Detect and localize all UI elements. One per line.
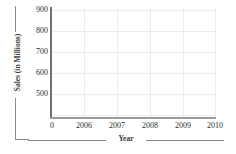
gridline-vertical (84, 8, 85, 118)
y-axis-title-block: Sales (in Millions) (8, 6, 24, 124)
gridline-vertical (215, 8, 216, 118)
gridline-horizontal (51, 73, 215, 74)
gridline-horizontal (51, 94, 215, 95)
y-axis-title-rule-bottom (15, 98, 16, 124)
x-axis-title: Year (28, 134, 224, 143)
x-axis-tick-label: 2010 (200, 121, 230, 130)
y-axis-tick-label: 700 (24, 47, 48, 56)
axis-frame-corner-horizontal (15, 139, 29, 140)
gridline-vertical (117, 8, 118, 118)
axis-frame-corner-vertical (15, 124, 16, 140)
y-axis-tick-label: 500 (24, 89, 48, 98)
gridline-horizontal (51, 115, 215, 116)
gridline-vertical (183, 8, 184, 118)
x-axis-title-block: Year (28, 134, 224, 148)
sales-by-year-chart: Sales (in Millions) 900800700600500 0200… (0, 0, 236, 154)
y-axis-title-rule-top (15, 6, 16, 32)
gridline-horizontal (51, 52, 215, 53)
x-axis-tick-label: 0 (37, 121, 67, 130)
x-axis-tick-label: 2008 (135, 121, 165, 130)
y-axis-tick-label: 600 (24, 68, 48, 77)
plot-area (51, 8, 215, 118)
y-axis-tick-label: 800 (24, 26, 48, 35)
x-axis-tick-label: 2007 (102, 121, 132, 130)
x-axis-tick-label: 2009 (168, 121, 198, 130)
x-axis-tick-label: 2006 (69, 121, 99, 130)
y-axis-line (50, 7, 52, 119)
gridline-horizontal (51, 31, 215, 32)
y-axis-tick-label: 900 (24, 5, 48, 14)
y-axis-title: Sales (in Millions) (13, 32, 22, 94)
gridline-vertical (150, 8, 151, 118)
x-axis-line (50, 117, 216, 119)
x-axis-title-rule-right (146, 140, 224, 141)
gridline-horizontal (51, 10, 215, 11)
